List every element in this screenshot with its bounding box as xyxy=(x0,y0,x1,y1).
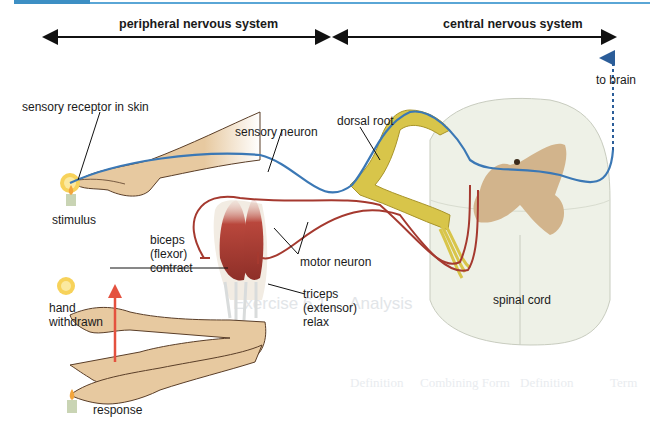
central-nervous-system-label: central nervous system xyxy=(443,17,583,31)
withdraw-spark-icon xyxy=(57,277,75,295)
response-label: response xyxy=(93,403,142,417)
triceps-extensor-label: (extensor) xyxy=(303,301,357,315)
stimulus-label: stimulus xyxy=(52,213,96,227)
reflex-arc-figure: Exercise 6.1 ... Analysis Definition Com… xyxy=(0,0,662,440)
peripheral-nervous-system-label: peripheral nervous system xyxy=(119,17,278,31)
biceps-contract-label: contract xyxy=(150,261,193,275)
diagram-graphics xyxy=(0,0,662,440)
sensory-receptor-label: sensory receptor in skin xyxy=(22,100,149,114)
hand-label: hand xyxy=(49,301,76,315)
to-brain-label: to brain xyxy=(596,73,636,87)
biceps-flexor-label: (flexor) xyxy=(150,247,187,261)
motor-neuron-label: motor neuron xyxy=(300,255,371,269)
biceps-triceps-muscles xyxy=(214,198,268,322)
spinal-cord-label: spinal cord xyxy=(493,293,551,307)
biceps-label: biceps xyxy=(150,233,185,247)
triceps-label: triceps xyxy=(303,287,338,301)
dorsal-root-label: dorsal root xyxy=(337,114,394,128)
hand-withdrawn-label: withdrawn xyxy=(49,315,103,329)
sensory-neuron-label: sensory neuron xyxy=(235,125,318,139)
triceps-relax-label: relax xyxy=(303,315,329,329)
spinal-cord xyxy=(430,98,610,345)
